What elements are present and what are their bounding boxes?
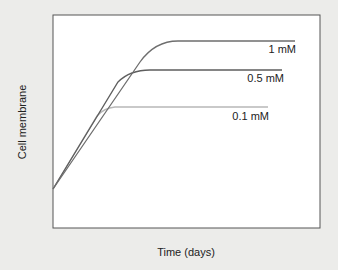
label-1mM: 1 mM: [269, 43, 297, 55]
x-axis-label: Time (days): [157, 246, 215, 258]
label-0-5mM: 0.5 mM: [247, 72, 284, 84]
chart: 1 mM 0.5 mM 0.1 mM Time (days) Cell memb…: [0, 0, 338, 270]
y-axis-label: Cell membrane: [16, 85, 28, 160]
label-0-1mM: 0.1 mM: [232, 110, 269, 122]
